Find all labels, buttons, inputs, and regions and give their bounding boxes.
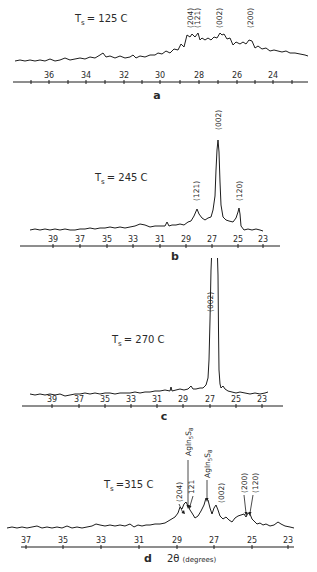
xrd-figure: Ts= 125 C (204) (121) (002) (200) 36 34	[0, 0, 317, 572]
x-axis-title: 2θ(degrees)	[167, 553, 216, 564]
hkl-label: (200)	[240, 473, 249, 493]
tick-labels-c: 39 37 35 33 31 29 27 25 23	[47, 395, 267, 404]
tick-label: 29	[181, 235, 191, 244]
tick-label: 35	[102, 235, 112, 244]
tick-label: 25	[231, 395, 241, 404]
tick-label: 26	[232, 71, 242, 80]
hkl-label: (120)	[235, 181, 244, 201]
tick-label: 31	[155, 235, 165, 244]
temperature-label-b: Ts= 245 C	[94, 172, 148, 186]
tick-label: 30	[155, 71, 165, 80]
tick-label: 39	[47, 395, 57, 404]
tick-label: 24	[268, 71, 278, 80]
xrd-trace-c-descending	[218, 258, 269, 394]
panel-label-c: c	[161, 410, 168, 423]
tick-label: 33	[96, 536, 106, 545]
xrd-trace-c	[30, 258, 212, 396]
tick-label: 23	[257, 395, 267, 404]
hkl-label: (200)	[246, 8, 255, 28]
tick-labels-b: 39 37 35 33 31 29 27 25 23	[48, 235, 268, 244]
panel-d: Ts=315 C (204) AgIn5S8 121 AgIn5S8 (002)…	[7, 427, 294, 565]
tick-label: 29	[172, 536, 182, 545]
tick-label: 23	[283, 536, 293, 545]
tick-labels-a: 36 34 32 30 28 26 24	[44, 71, 278, 80]
tick-label: 33	[128, 235, 138, 244]
tick-label: 33	[126, 395, 136, 404]
panel-b: Ts= 245 C (121) (002) (120) 39 37 35 33 …	[20, 110, 280, 263]
hkl-label: (121)	[193, 8, 202, 28]
tick-label: 25	[233, 235, 243, 244]
tick-label: 27	[205, 395, 215, 404]
tick-label: 34	[81, 71, 91, 80]
tick-label: 27	[209, 536, 219, 545]
tick-label: 36	[44, 71, 54, 80]
tick-label: 32	[119, 71, 129, 80]
phase-label: AgIn5S8	[203, 449, 213, 478]
temperature-label-a: Ts= 125 C	[74, 13, 128, 27]
temperature-label-c: Ts= 270 C	[111, 334, 165, 348]
xrd-trace-b	[30, 140, 263, 231]
panel-c: Ts= 270 C (002) 39 37 35 33 31 29 27 25 …	[22, 258, 283, 423]
hkl-label: (002)	[214, 110, 223, 130]
tick-label: 37	[21, 536, 31, 545]
tick-label: 31	[152, 395, 162, 404]
panel-label-b: b	[171, 250, 179, 263]
tick-label: 37	[74, 395, 84, 404]
xrd-trace-a	[15, 33, 308, 61]
tick-label: 23	[258, 235, 268, 244]
tick-label: 29	[178, 395, 188, 404]
panel-a: Ts= 125 C (204) (121) (002) (200) 36 34	[13, 8, 308, 102]
tick-label: 37	[75, 235, 85, 244]
tick-label: 25	[247, 536, 257, 545]
tick-label: 35	[58, 536, 68, 545]
panel-label-d: d	[144, 552, 152, 565]
hkl-label: (002)	[217, 483, 226, 503]
hkl-label: (121)	[192, 181, 201, 201]
hkl-label: (002)	[215, 8, 224, 28]
tick-labels-d: 37 35 33 31 29 27 25 23	[21, 536, 293, 545]
hkl-label: (204)	[175, 482, 184, 502]
temperature-label-d: Ts=315 C	[103, 479, 153, 493]
tick-label: 35	[100, 395, 110, 404]
hkl-label: (120)	[251, 473, 260, 493]
tick-label: 31	[134, 536, 144, 545]
tick-label: 39	[48, 235, 58, 244]
panel-label-a: a	[153, 89, 160, 102]
tick-label: 28	[194, 71, 204, 80]
phase-label: AgIn5S8	[184, 427, 194, 456]
tick-label: 27	[207, 235, 217, 244]
